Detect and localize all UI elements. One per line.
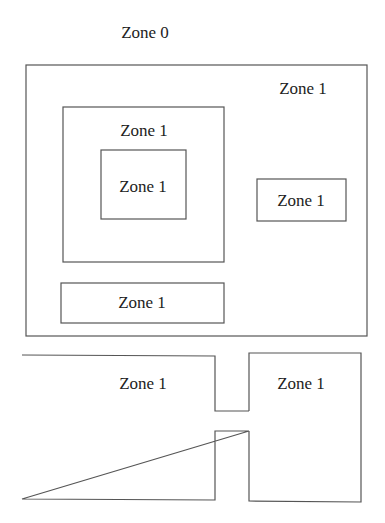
inner-square-label: Zone 1 [120, 121, 168, 140]
zone-diagram: Zone 0 Zone 1 Zone 1 Zone 1 Zone 1 Zone … [0, 0, 385, 523]
left-room-label: Zone 1 [119, 374, 167, 393]
bottom-box-label: Zone 1 [118, 293, 166, 312]
zone0-label: Zone 0 [121, 23, 169, 42]
nested-square-label: Zone 1 [119, 177, 167, 196]
right-room-label: Zone 1 [277, 374, 325, 393]
right-box-label: Zone 1 [277, 191, 325, 210]
outer-region-label: Zone 1 [279, 79, 327, 98]
